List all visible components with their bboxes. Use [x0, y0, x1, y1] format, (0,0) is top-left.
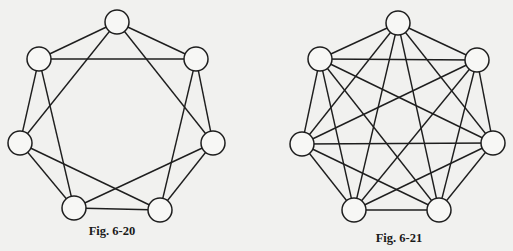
vertex-upper-left	[27, 47, 51, 71]
graph-canvas	[0, 0, 513, 251]
vertex-top	[386, 11, 410, 35]
vertex-right	[481, 131, 505, 155]
figure-6-21-graph	[290, 11, 505, 222]
vertex-bottom-left	[62, 196, 86, 220]
edge-bottom-right-upper-left	[320, 59, 439, 210]
edge-top-right	[398, 23, 493, 143]
vertex-bottom-right	[427, 198, 451, 222]
edge-top-upper-right	[398, 23, 477, 60]
edge-bottom-right-left	[302, 144, 439, 210]
fig-6-21-edges	[302, 23, 493, 210]
edge-top-upper-left	[39, 22, 117, 59]
edge-right-bottom-left	[354, 143, 493, 210]
edge-right-bottom-left	[74, 143, 213, 208]
edge-top-upper-left	[320, 23, 398, 59]
edge-upper-right-upper-left	[320, 59, 477, 60]
vertex-right	[201, 131, 225, 155]
edge-top-right	[117, 22, 213, 143]
vertex-top	[105, 10, 129, 34]
fig-6-20-edges	[20, 22, 213, 210]
vertex-bottom-right	[148, 198, 172, 222]
figure-6-20-caption: Fig. 6-20	[89, 224, 136, 239]
vertex-upper-right	[184, 47, 208, 71]
figure-6-21-caption: Fig. 6-21	[376, 231, 423, 246]
edge-upper-right-right	[196, 59, 213, 143]
edge-top-left	[20, 22, 117, 143]
edge-right-left	[302, 143, 493, 144]
edge-top-upper-right	[117, 22, 196, 59]
vertex-left	[290, 132, 314, 156]
edge-bottom-left-bottom-right	[74, 208, 160, 210]
edge-left-upper-left	[302, 59, 320, 144]
vertex-left	[8, 131, 32, 155]
vertex-bottom-left	[342, 198, 366, 222]
vertex-upper-right	[465, 48, 489, 72]
figure-6-20-graph	[8, 10, 225, 222]
edge-top-bottom-right	[398, 23, 439, 210]
edge-upper-right-left	[302, 60, 477, 144]
vertex-upper-left	[308, 47, 332, 71]
